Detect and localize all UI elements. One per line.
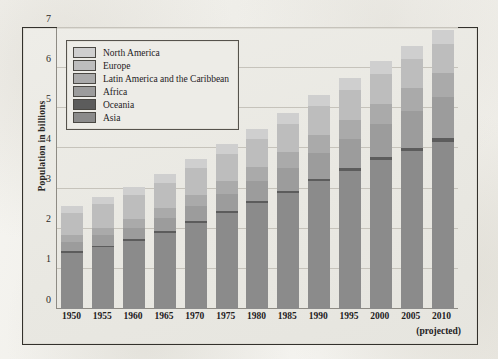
x-axis-tick-label: 1995 xyxy=(334,311,365,321)
bar-column[interactable] xyxy=(432,28,454,309)
bar-column[interactable] xyxy=(308,28,330,309)
legend-color-swatch-icon xyxy=(73,73,96,84)
bar-segment xyxy=(308,153,330,179)
legend-item[interactable]: Latin America and the Caribbean xyxy=(73,72,229,85)
bar-segment xyxy=(339,120,361,139)
legend-color-swatch-icon xyxy=(73,99,96,110)
bar-column[interactable] xyxy=(246,28,268,309)
y-axis-tick-label: 2 xyxy=(46,213,51,224)
bar-segment xyxy=(339,90,361,119)
bar-segment xyxy=(339,139,361,168)
x-axis-tick-annotation: (projected) xyxy=(416,326,461,336)
bar-segment xyxy=(92,197,114,205)
x-axis-tick-label: 1960 xyxy=(118,311,149,321)
bar-segment xyxy=(432,73,454,97)
bar-segment xyxy=(61,253,83,309)
legend-item-label: Asia xyxy=(103,113,120,123)
x-axis-tick-label: 1965 xyxy=(149,311,180,321)
bar-segment xyxy=(216,144,238,154)
bar-segment xyxy=(401,151,423,309)
bar-segment xyxy=(308,106,330,135)
y-axis-tick-label: 0 xyxy=(46,293,51,304)
x-axis-tick-labels: 1950195519601965197019751980198519901995… xyxy=(56,311,457,321)
legend-item[interactable]: Oceania xyxy=(73,98,229,111)
legend-item-label: Latin America and the Caribbean xyxy=(103,74,229,84)
bar-segment xyxy=(92,204,114,227)
x-axis-tick-label: 1980 xyxy=(241,311,272,321)
x-axis-tick-label: 2000 xyxy=(364,311,395,321)
bar-segment xyxy=(216,213,238,309)
bar-segment xyxy=(277,113,299,124)
y-axis-tick-label: 6 xyxy=(46,52,51,63)
legend-color-swatch-icon xyxy=(73,47,96,58)
chart-legend: North AmericaEuropeLatin America and the… xyxy=(66,40,239,130)
bar-segment xyxy=(92,247,114,309)
bar-segment xyxy=(432,44,454,73)
x-axis-tick-label: 1955 xyxy=(87,311,118,321)
bar-segment xyxy=(154,233,176,309)
y-axis-tick-label: 1 xyxy=(46,253,51,264)
legend-color-swatch-icon xyxy=(73,86,96,97)
x-axis-tick-label: 1990 xyxy=(303,311,334,321)
bar-segment xyxy=(246,167,268,181)
bar-segment xyxy=(277,152,299,168)
bar-segment xyxy=(154,208,176,218)
bar-segment xyxy=(339,78,361,90)
legend-item-label: Europe xyxy=(103,61,130,71)
bar-segment xyxy=(123,219,145,228)
bar-segment xyxy=(370,124,392,157)
legend-color-swatch-icon xyxy=(73,112,96,123)
bar-segment xyxy=(246,203,268,309)
legend-color-swatch-icon xyxy=(73,60,96,71)
bar-segment xyxy=(401,88,423,110)
bar-segment xyxy=(123,187,145,195)
legend-item-label: Africa xyxy=(103,87,127,97)
x-axis-tick-label: 1950 xyxy=(56,311,87,321)
bar-segment xyxy=(61,235,83,242)
plot-wrapper: Population in billions 01234567 19501955… xyxy=(23,28,477,344)
bar-column[interactable] xyxy=(277,28,299,309)
bar-segment xyxy=(308,95,330,106)
bar-column[interactable] xyxy=(370,28,392,309)
x-axis-tick-label: 2010(projected) xyxy=(426,311,457,321)
y-axis-tick-label: 5 xyxy=(46,92,51,103)
bar-segment xyxy=(370,61,392,74)
bar-column[interactable] xyxy=(339,28,361,309)
bar-segment xyxy=(308,181,330,309)
legend-item[interactable]: Asia xyxy=(73,111,229,124)
bar-segment xyxy=(92,235,114,245)
legend-item-label: Oceania xyxy=(103,100,134,110)
bar-segment xyxy=(154,218,176,231)
bar-segment xyxy=(216,194,238,211)
legend-item[interactable]: Europe xyxy=(73,59,229,72)
x-axis-tick-label: 1985 xyxy=(272,311,303,321)
bar-segment xyxy=(432,142,454,309)
bar-segment xyxy=(370,74,392,103)
legend-item-label: North America xyxy=(103,48,160,58)
bar-segment xyxy=(401,59,423,88)
bar-segment xyxy=(370,104,392,125)
bar-segment xyxy=(61,242,83,251)
bar-segment xyxy=(246,139,268,167)
y-axis-tick-label: 3 xyxy=(46,173,51,184)
bar-segment xyxy=(185,223,207,309)
x-axis-tick-label: 1975 xyxy=(210,311,241,321)
bar-segment xyxy=(370,160,392,309)
x-axis-tick-label: 1970 xyxy=(179,311,210,321)
bar-segment xyxy=(401,46,423,59)
bar-segment xyxy=(216,154,238,181)
bar-column[interactable] xyxy=(401,28,423,309)
bar-segment xyxy=(216,181,238,194)
bar-segment xyxy=(154,174,176,183)
bar-segment xyxy=(277,193,299,309)
bar-segment xyxy=(154,183,176,208)
bar-segment xyxy=(432,30,454,44)
y-axis-tick-label: 7 xyxy=(46,12,51,23)
bar-segment xyxy=(123,195,145,219)
bar-segment xyxy=(185,195,207,207)
legend-item[interactable]: North America xyxy=(73,46,229,59)
bar-segment xyxy=(92,228,114,236)
legend-item[interactable]: Africa xyxy=(73,85,229,98)
bar-segment xyxy=(432,97,454,138)
bar-segment xyxy=(61,206,83,213)
